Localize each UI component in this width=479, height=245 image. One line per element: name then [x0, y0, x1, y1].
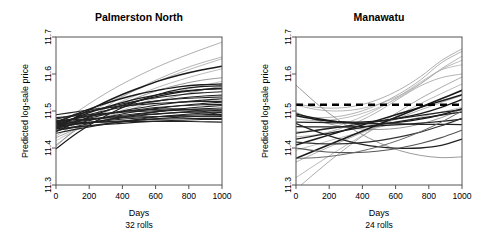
x-tick-label: 600: [148, 191, 163, 201]
y-tick-label: 11.5: [43, 103, 53, 119]
series-line: [296, 49, 462, 108]
y-tick-label: 11.3: [43, 177, 53, 193]
x-tick-label: 0: [54, 191, 59, 201]
series-group: [296, 49, 462, 190]
panel-title: Palmerston North: [95, 11, 183, 23]
x-tick-label: 600: [388, 191, 403, 201]
x-axis-label: Days: [129, 208, 150, 218]
y-tick-label: 11.3: [283, 177, 293, 193]
x-tick-label: 1000: [452, 191, 471, 201]
figure-root: Palmerston North0200400600800100011.311.…: [0, 0, 479, 245]
chart-panel-manawatu: Manawatu0200400600800100011.311.411.511.…: [240, 0, 479, 245]
plot-svg-1: Manawatu0200400600800100011.311.411.511.…: [240, 0, 479, 245]
x-tick-label: 800: [422, 191, 437, 201]
series-line: [296, 84, 462, 178]
x-tick-label: 400: [355, 191, 370, 201]
x-tick-label: 0: [294, 191, 299, 201]
x-tick-label: 1000: [212, 191, 231, 201]
y-tick-label: 11.4: [43, 140, 53, 156]
y-tick-label: 11.7: [43, 29, 53, 45]
x-tick-label: 800: [182, 191, 197, 201]
series-line: [296, 60, 462, 120]
y-axis-label: Predicted log-sale price: [20, 64, 30, 158]
x-tick-label: 200: [82, 191, 97, 201]
y-tick-label: 11.7: [283, 29, 293, 45]
panel-title: Manawatu: [354, 11, 405, 23]
y-tick-label: 11.6: [283, 66, 293, 82]
y-tick-label: 11.4: [283, 140, 293, 156]
panel-sublabel: 32 rolls: [125, 220, 153, 230]
chart-panel-palmerston-north: Palmerston North0200400600800100011.311.…: [0, 0, 239, 245]
y-tick-label: 11.5: [283, 103, 293, 119]
x-tick-label: 200: [322, 191, 337, 201]
series-group: [56, 42, 222, 149]
x-axis-label: Days: [369, 208, 390, 218]
y-tick-label: 11.6: [43, 66, 53, 82]
panel-sublabel: 24 rolls: [365, 220, 393, 230]
y-axis-label: Predicted log-sale price: [260, 64, 270, 158]
x-tick-label: 400: [115, 191, 130, 201]
plot-svg-0: Palmerston North0200400600800100011.311.…: [0, 0, 239, 245]
